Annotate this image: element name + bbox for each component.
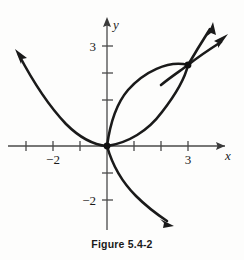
figure-caption: Figure 5.4-2 xyxy=(0,238,244,250)
curve-lower-right-branch xyxy=(107,146,167,221)
curve-upper-left-branch xyxy=(19,55,107,146)
y-axis xyxy=(103,17,111,230)
y-axis-arrowhead xyxy=(103,17,111,27)
intersection-point-marker xyxy=(185,62,192,69)
curve-upper-right-extension xyxy=(188,29,210,65)
x-tick-label--2: −2 xyxy=(46,152,60,167)
coordinate-plot: −2 3 3 −2 x y xyxy=(0,0,244,238)
plot-area: −2 3 3 −2 x y xyxy=(0,0,244,238)
x-axis-label: x xyxy=(224,148,231,163)
y-axis-label: y xyxy=(111,17,119,32)
curve-loop-upper-arc xyxy=(107,64,188,146)
curve-upper-right-arrowhead xyxy=(207,22,216,36)
x-tick-label-3: 3 xyxy=(185,152,192,167)
origin-point-marker xyxy=(104,143,111,150)
figure-container: −2 3 3 −2 x y xyxy=(0,0,244,260)
y-tick-label--2: −2 xyxy=(82,193,96,208)
y-tick-label-3: 3 xyxy=(90,39,97,54)
curve-upper-left-arrowhead xyxy=(15,49,27,64)
